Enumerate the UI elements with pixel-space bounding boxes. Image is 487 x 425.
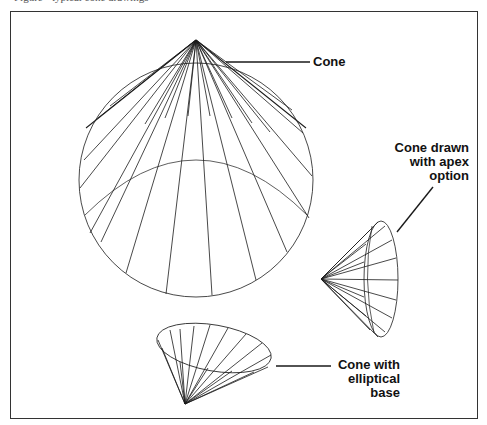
label-elliptical-line2: elliptical base [318,372,400,400]
label-apex-line1: Cone drawn [385,141,469,155]
label-elliptical-line1: Cone with [318,358,400,372]
label-cone: Cone [313,55,346,69]
apex-leader-line [397,187,433,232]
elliptical-base-cone [153,315,275,404]
label-elliptical-base: Cone with elliptical base [318,358,400,400]
label-apex-option: Cone drawn with apex option [385,141,469,183]
label-apex-line2: with apex [385,155,469,169]
cone-illustrations [0,0,487,425]
apex-option-cone [321,221,398,337]
label-apex-line3: option [385,169,469,183]
large-cone [79,40,313,297]
